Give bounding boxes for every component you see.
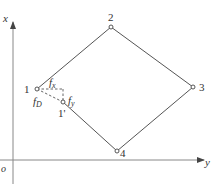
- axis-label-y: y: [204, 156, 210, 168]
- node-label-1: 1: [24, 83, 30, 95]
- edge-2-3: [111, 27, 193, 87]
- edge-1p-4: [63, 102, 117, 151]
- node-label-2: 2: [108, 11, 114, 23]
- node-4: [115, 149, 119, 153]
- origin-label: o: [1, 163, 6, 174]
- node-1-prime: [61, 100, 65, 104]
- node-label-4: 4: [120, 147, 126, 159]
- node-2: [109, 25, 113, 29]
- node-label-3: 3: [199, 81, 205, 93]
- force-label-fy: fy: [68, 94, 75, 108]
- edge-3-4: [117, 87, 193, 151]
- node-3: [191, 85, 195, 89]
- force-label-fx: fx: [49, 76, 56, 90]
- node-label-1-prime: 1': [58, 107, 66, 119]
- axis-label-x: x: [2, 12, 8, 24]
- truss-displacement-diagram: x y o 1 2 3 4 1' fx fy fD: [0, 0, 219, 184]
- node-1: [35, 87, 39, 91]
- force-label-fd: fD: [33, 95, 42, 109]
